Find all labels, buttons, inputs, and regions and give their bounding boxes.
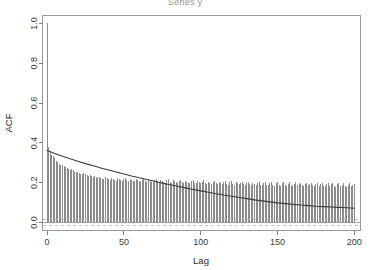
x-axis-tick-label: 50 [119, 237, 129, 247]
acf-plot-figure: Series y 0.00.20.40.60.81.0 050100150200… [0, 0, 371, 270]
acf-chart-canvas: Series y 0.00.20.40.60.81.0 050100150200… [0, 0, 371, 270]
y-axis-tick-label: 0.2 [29, 176, 39, 189]
x-axis-tick-label: 100 [193, 237, 208, 247]
x-axis-tick-label: 150 [270, 237, 285, 247]
plot-title-group: Series y [168, 0, 203, 7]
y-axis-title: ACF [3, 113, 14, 132]
y-axis-tick-label: 0.4 [29, 137, 39, 150]
x-axis-title: Lag [193, 255, 209, 266]
y-axis-tick-label: 0.0 [29, 216, 39, 229]
y-axis-tick-label: 0.8 [29, 57, 39, 70]
y-axis-tick-label: 0.6 [29, 97, 39, 110]
figure-background [0, 0, 371, 270]
plot-title: Series y [168, 0, 203, 7]
x-axis-tick-label: 200 [347, 237, 362, 247]
x-axis-tick-label: 0 [45, 237, 50, 247]
y-axis-tick-label: 1.0 [29, 17, 39, 30]
